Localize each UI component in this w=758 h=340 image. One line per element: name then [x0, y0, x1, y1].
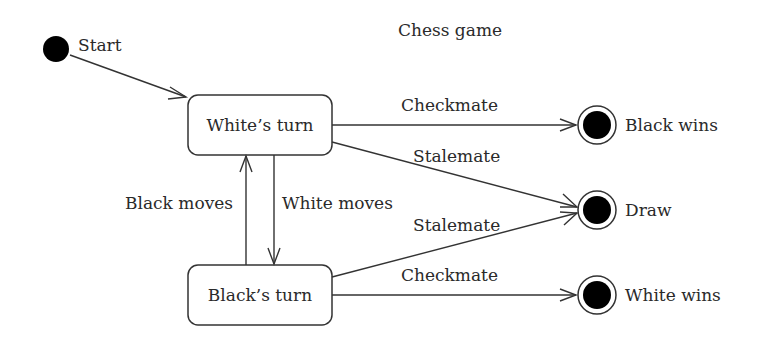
initial-state: Start [43, 35, 122, 62]
final-state-draw-label: Draw [625, 200, 672, 220]
state-black-turn-label: Black’s turn [208, 285, 312, 305]
final-state-dot-icon [583, 196, 611, 224]
diagram-title: Chess game [398, 20, 502, 40]
transition-black-moves-label: Black moves [125, 193, 233, 213]
transition-white-stalemate-label: Stalemate [413, 146, 500, 166]
final-state-dot-icon [583, 281, 611, 309]
transition-white-moves-label: White moves [282, 193, 393, 213]
transition-white-moves: White moves [268, 155, 393, 264]
final-state-black-wins: Black wins [578, 106, 718, 144]
transition-white-checkmate: Checkmate [332, 95, 576, 131]
final-state-dot-icon [583, 111, 611, 139]
state-white-turn: White’s turn [188, 95, 332, 155]
final-state-white-wins-label: White wins [625, 285, 721, 305]
transition-start-to-white [70, 55, 186, 99]
initial-state-label: Start [78, 35, 122, 55]
final-state-draw: Draw [578, 191, 672, 229]
transition-black-checkmate-label: Checkmate [401, 265, 498, 285]
transition-white-checkmate-label: Checkmate [401, 95, 498, 115]
transition-black-checkmate: Checkmate [332, 265, 576, 301]
state-white-turn-label: White’s turn [206, 115, 313, 135]
transition-black-stalemate-label: Stalemate [413, 215, 500, 235]
chess-state-diagram: Chess game Start White’s turn Black’s tu… [0, 0, 758, 340]
final-state-black-wins-label: Black wins [625, 115, 718, 135]
transition-black-moves: Black moves [125, 156, 252, 265]
state-black-turn: Black’s turn [188, 265, 332, 325]
final-state-white-wins: White wins [578, 276, 721, 314]
initial-state-dot-icon [43, 36, 69, 62]
